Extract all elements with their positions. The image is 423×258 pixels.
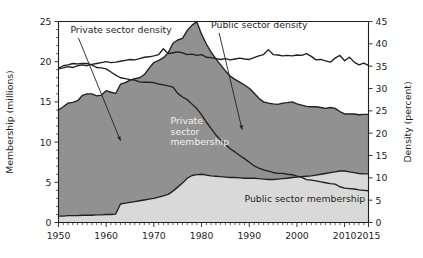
bottom-ticklabel: 2000 xyxy=(285,230,309,241)
right-axis-title: Density (percent) xyxy=(402,81,413,162)
right-ticklabel: 25 xyxy=(376,105,388,116)
right-ticklabel: 40 xyxy=(376,38,388,49)
left-ticklabel: 5 xyxy=(46,177,52,188)
bottom-ticklabel: 1950 xyxy=(47,230,71,241)
bottom-ticklabel: 2010 xyxy=(333,230,357,241)
right-ticklabel: 30 xyxy=(376,83,388,94)
left-ticklabel: 0 xyxy=(46,217,52,228)
bottom-ticklabel: 1970 xyxy=(142,230,166,241)
bottom-ticklabel: 1990 xyxy=(237,230,261,241)
public-sector-membership-label: Public sector membership xyxy=(245,193,366,204)
chart-svg: 0510152025 051015202530354045 1950196019… xyxy=(0,0,423,258)
left-ticklabel: 25 xyxy=(40,16,52,27)
right-ticklabel: 35 xyxy=(376,61,388,72)
right-ticklabel: 20 xyxy=(376,128,388,139)
left-ticklabel: 10 xyxy=(40,137,52,148)
bottom-ticklabel: 1980 xyxy=(190,230,214,241)
public-sector-density-label: Public sector density xyxy=(211,19,308,30)
bottom-ticklabel: 1960 xyxy=(94,230,118,241)
left-axis-title: Membership (millions) xyxy=(4,70,15,173)
right-ticklabel: 0 xyxy=(376,217,382,228)
left-ticklabel: 15 xyxy=(40,96,52,107)
private-sector-density-label: Private sector density xyxy=(70,24,172,35)
right-ticklabel: 5 xyxy=(376,195,382,206)
left-ticklabel: 20 xyxy=(40,56,52,67)
bottom-ticklabel: 2015 xyxy=(357,230,381,241)
right-ticklabel: 15 xyxy=(376,150,388,161)
union-membership-density-chart: 0510152025 051015202530354045 1950196019… xyxy=(0,0,423,258)
right-ticklabel: 10 xyxy=(376,172,388,183)
right-ticklabel: 45 xyxy=(376,16,388,27)
